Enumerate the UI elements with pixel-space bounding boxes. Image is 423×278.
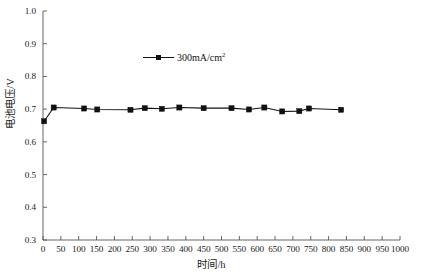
legend-label-300ma: 300mA/cm2 xyxy=(177,51,225,63)
y-tick-label: 0.5 xyxy=(0,170,36,180)
x-tick-label: 650 xyxy=(268,244,281,254)
x-tick-label: 0 xyxy=(41,244,46,254)
x-tick-label: 150 xyxy=(90,244,103,254)
y-tick-label: 0.4 xyxy=(0,202,36,212)
legend-line-right xyxy=(161,57,174,58)
x-tick-label: 900 xyxy=(358,244,371,254)
x-tick-label: 450 xyxy=(197,244,210,254)
x-tick-label: 500 xyxy=(215,244,228,254)
x-tick-label: 750 xyxy=(304,244,317,254)
axis-spines xyxy=(43,11,400,240)
x-tick-label: 1000 xyxy=(391,244,409,254)
legend-line-left xyxy=(143,57,156,58)
x-tick-label: 850 xyxy=(340,244,353,254)
legend-label-superscript: 2 xyxy=(222,51,225,58)
x-tick-label: 200 xyxy=(108,244,121,254)
legend-label-base: 300mA/cm xyxy=(177,52,222,63)
x-tick-label: 800 xyxy=(322,244,335,254)
y-axis-ticks xyxy=(43,11,47,240)
x-tick-label: 550 xyxy=(233,244,246,254)
x-tick-label: 700 xyxy=(286,244,299,254)
plot-area xyxy=(0,0,423,278)
x-tick-label: 50 xyxy=(56,244,65,254)
x-axis-ticks xyxy=(43,236,400,240)
x-tick-label: 300 xyxy=(143,244,156,254)
x-tick-label: 250 xyxy=(126,244,139,254)
chart-figure: 0.30.40.50.60.70.80.91.0 050100150200250… xyxy=(0,0,423,278)
y-tick-label: 0.3 xyxy=(0,235,36,245)
x-tick-label: 400 xyxy=(179,244,192,254)
x-axis-title: 时间/h xyxy=(0,256,423,271)
y-tick-label: 0.9 xyxy=(0,39,36,49)
y-tick-label: 1.0 xyxy=(0,6,36,16)
x-tick-label: 100 xyxy=(72,244,85,254)
x-tick-label: 950 xyxy=(375,244,388,254)
y-axis-title: 电池电压/V xyxy=(2,59,17,149)
x-tick-label: 600 xyxy=(250,244,263,254)
x-tick-label: 350 xyxy=(161,244,174,254)
chart-legend: 300mA/cm2 xyxy=(143,51,225,63)
